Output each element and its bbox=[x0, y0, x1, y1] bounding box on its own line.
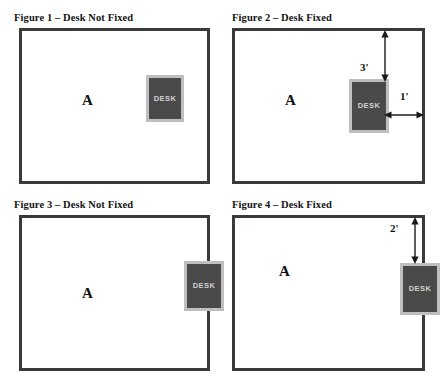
figure-2-right-clearance-arrow bbox=[384, 109, 424, 121]
figure-4-room: A bbox=[232, 215, 425, 371]
figure-1-desk: DESK bbox=[146, 75, 184, 122]
figure-4-title: Figure 4 – Desk Fixed bbox=[232, 199, 332, 210]
figure-4-top-clearance-label: 2' bbox=[390, 223, 399, 234]
figure-2-title: Figure 2 – Desk Fixed bbox=[232, 12, 332, 23]
figure-3-occupant-label: A bbox=[82, 286, 93, 301]
figure-2-top-clearance-label: 3' bbox=[360, 62, 369, 73]
figure-3-room: A bbox=[19, 215, 210, 371]
figure-3: Figure 3 – Desk Not Fixed A DESK bbox=[14, 199, 214, 379]
figure-1-room: A DESK bbox=[19, 28, 210, 184]
figure-2-desk-label: DESK bbox=[358, 102, 380, 110]
figure-3-desk-label: DESK bbox=[193, 282, 215, 290]
figure-4-top-clearance-arrow bbox=[408, 217, 422, 264]
figure-1-occupant-label: A bbox=[82, 93, 93, 108]
figure-1-title: Figure 1 – Desk Not Fixed bbox=[14, 12, 133, 23]
figure-1: Figure 1 – Desk Not Fixed A DESK bbox=[14, 12, 214, 187]
figure-4-desk-label: DESK bbox=[409, 285, 431, 293]
figure-2-room: A DESK bbox=[232, 28, 425, 184]
figure-3-desk: DESK bbox=[184, 261, 224, 311]
figure-2-desk: DESK bbox=[349, 79, 389, 133]
figure-4-occupant-label: A bbox=[279, 264, 290, 279]
figure-3-title: Figure 3 – Desk Not Fixed bbox=[14, 199, 133, 210]
figure-4: Figure 4 – Desk Fixed A DESK 2' bbox=[232, 199, 432, 379]
figure-2-top-clearance-arrow bbox=[378, 30, 392, 82]
figure-1-desk-label: DESK bbox=[154, 95, 176, 103]
figure-2-occupant-label: A bbox=[285, 93, 296, 108]
figure-4-desk: DESK bbox=[400, 263, 440, 315]
figure-2: Figure 2 – Desk Fixed A DESK 3' 1' bbox=[232, 12, 432, 187]
figure-2-right-clearance-label: 1' bbox=[400, 91, 409, 102]
figure-sheet: { "sheet": { "occupant_label": "A", "des… bbox=[0, 0, 440, 387]
